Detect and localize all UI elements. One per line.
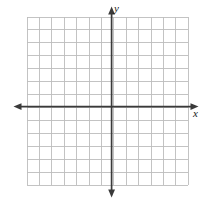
x-axis-label: x	[193, 108, 198, 119]
y-axis-label: y	[114, 3, 119, 14]
grid-background	[27, 17, 188, 185]
coordinate-plane-figure	[0, 0, 210, 203]
